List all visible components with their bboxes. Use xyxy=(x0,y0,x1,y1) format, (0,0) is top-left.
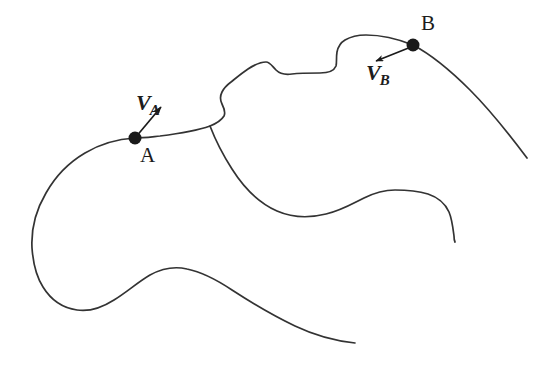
velocity-vector-b-arrow xyxy=(376,47,411,61)
vector-a-subscript: A xyxy=(150,102,160,118)
vector-b-subscript: B xyxy=(380,72,390,88)
velocity-diagram-figure: VA VB A B xyxy=(0,0,553,365)
point-b-marker xyxy=(407,39,420,52)
curve-canvas xyxy=(0,0,553,365)
vector-b-symbol: V xyxy=(366,60,381,85)
main-outline-curve xyxy=(32,35,527,343)
velocity-vector-b-label: VB xyxy=(366,62,390,88)
vector-a-symbol: V xyxy=(136,90,151,115)
inner-branch-curve xyxy=(210,126,455,242)
velocity-vector-a-label: VA xyxy=(136,92,160,118)
point-a-label: A xyxy=(140,145,155,166)
point-b-label: B xyxy=(421,13,435,34)
